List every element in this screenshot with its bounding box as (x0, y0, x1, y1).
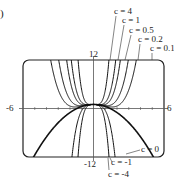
label-pointer (118, 25, 124, 60)
label-pointer (110, 16, 116, 60)
curve-label: c = -1 (111, 158, 132, 167)
curve-label: c = 0 (141, 145, 159, 154)
x-max-label: 6 (167, 104, 172, 113)
x-min-label: -6 (6, 104, 14, 113)
curve-label: c = 0.1 (150, 44, 174, 53)
y-min-label: -12 (84, 160, 96, 169)
curve-label: c = 1 (122, 16, 140, 25)
y-max-label: 12 (89, 50, 98, 59)
label-pointer (126, 150, 140, 154)
label-pointer (125, 35, 131, 60)
panel-label: ) (0, 8, 4, 19)
label-pointer (138, 44, 140, 60)
curve-label: c = -4 (108, 170, 129, 179)
